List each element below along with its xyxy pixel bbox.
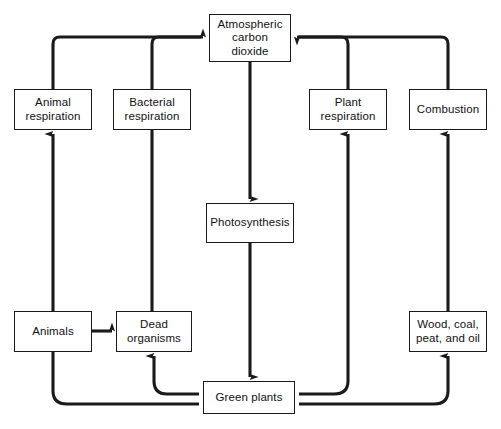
edge-plant-respiration-to-atmosphere — [299, 37, 348, 89]
node-label-combustion: Combustion — [417, 103, 479, 117]
node-plant-respiration: Plant respiration — [309, 89, 387, 130]
node-animal-respiration: Animal respiration — [14, 89, 92, 130]
node-label-green-plants: Green plants — [215, 391, 282, 405]
node-wood-coal-peat-and-oil: Wood, coal, peat, and oil — [409, 311, 487, 352]
node-animals: Animals — [14, 311, 92, 352]
node-label-photosynthesis: Photosynthesis — [210, 216, 289, 230]
node-atmospheric-carbon-dioxide: Atmospheric carbon dioxide — [209, 14, 291, 62]
node-label-animals: Animals — [32, 325, 74, 339]
carbon-cycle-diagram: Atmospheric carbon dioxide Animal respir… — [0, 0, 501, 429]
edge-combustion-to-atmosphere — [297, 37, 448, 89]
node-combustion: Combustion — [409, 89, 487, 130]
node-green-plants: Green plants — [203, 381, 295, 414]
node-dead-organisms: Dead organisms — [116, 311, 192, 352]
edge-animal-respiration-to-atmosphere — [53, 37, 203, 89]
node-photosynthesis: Photosynthesis — [206, 203, 294, 243]
node-label-bacterial-respiration: Bacterial respiration — [125, 96, 180, 123]
node-label-wood-coal-peat-and-oil: Wood, coal, peat, and oil — [416, 318, 480, 345]
node-bacterial-respiration: Bacterial respiration — [113, 89, 191, 130]
edge-green-plants-to-plant-respiration — [299, 134, 348, 394]
node-label-atmospheric-carbon-dioxide: Atmospheric carbon dioxide — [217, 18, 282, 59]
node-label-animal-respiration: Animal respiration — [26, 96, 81, 123]
edge-bacterial-respiration-to-atmosphere — [152, 37, 201, 89]
edge-green-plants-to-dead-organisms — [154, 356, 199, 394]
node-label-dead-organisms: Dead organisms — [127, 318, 181, 345]
edge-green-plants-to-animals — [53, 352, 199, 404]
node-label-plant-respiration: Plant respiration — [321, 96, 376, 123]
edge-green-plants-to-wood-coal-peat-and-oil — [299, 356, 448, 404]
